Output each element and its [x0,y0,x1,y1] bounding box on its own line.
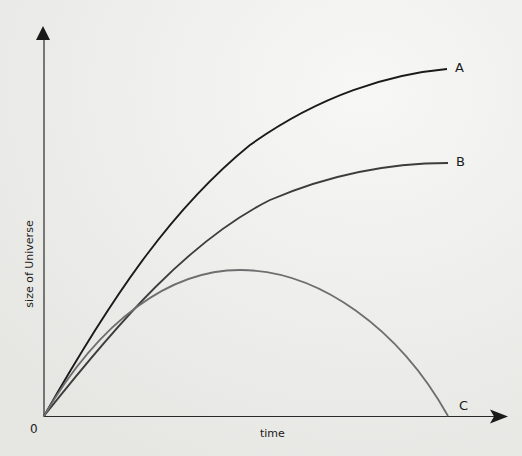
curve-b-label: B [456,154,465,169]
chart-svg: A B C 0 time size of Universe [0,0,522,456]
curve-c-label: C [459,398,468,413]
curve-a-label: A [455,60,464,75]
x-axis-label: time [260,427,285,440]
y-axis-label: size of Universe [23,220,36,308]
paper-background [0,0,522,456]
universe-expansion-chart: A B C 0 time size of Universe [0,0,522,456]
origin-label: 0 [30,422,38,436]
